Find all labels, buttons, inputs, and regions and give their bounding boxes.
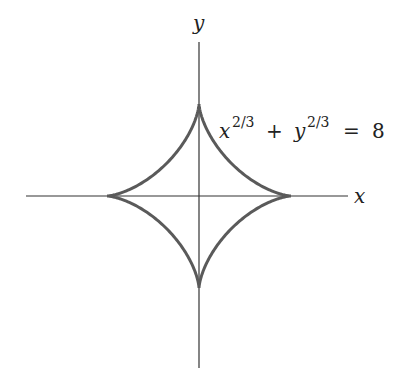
astroid-diagram: x y x 2/3 + y 2/3 = 8 [0, 0, 402, 377]
equation-label: x 2/3 + y 2/3 = 8 [219, 114, 385, 143]
equation-x: x [219, 119, 230, 143]
equation-plus: + [266, 119, 283, 143]
equation-y: y [293, 119, 306, 143]
equation-y-exponent: 2/3 [307, 114, 330, 130]
x-axis-label: x [354, 184, 365, 208]
equation-x-exponent: 2/3 [232, 114, 255, 130]
equation-equals: = [343, 119, 360, 143]
y-axis-label: y [192, 11, 205, 35]
equation-rhs: 8 [372, 119, 385, 143]
